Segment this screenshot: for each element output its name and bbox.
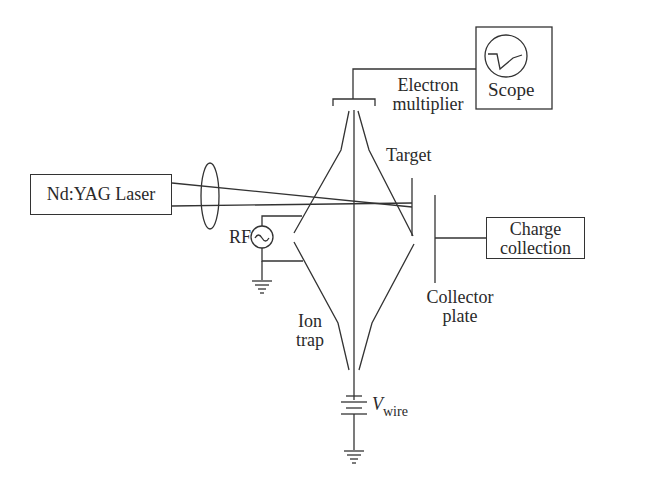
electron-multiplier-line2: multiplier <box>383 95 473 114</box>
ion-trap-label: Ion trap <box>290 312 330 350</box>
laser-beam-lower <box>172 203 412 206</box>
ground-icon-rf <box>252 281 272 293</box>
lens-icon <box>201 163 219 229</box>
scope-label: Scope <box>488 80 534 99</box>
ion-trap-right-upper <box>358 111 413 236</box>
collector-plate-line1: Collector <box>419 288 501 307</box>
electron-multiplier-line1: Electron <box>383 76 473 95</box>
charge-collection-box: Charge collection <box>486 217 585 259</box>
vwire-label: Vwire <box>372 395 408 415</box>
ion-trap-line2: trap <box>290 331 330 350</box>
vwire-symbol: V <box>372 394 383 414</box>
target-label: Target <box>386 146 431 165</box>
collector-plate-line2: plate <box>419 307 501 326</box>
rf-sine <box>255 235 269 241</box>
scope-trace <box>488 54 522 69</box>
rf-wire-bottom <box>262 248 303 261</box>
charge-collection-line2: collection <box>487 239 584 258</box>
ion-trap-left-upper <box>294 111 349 233</box>
electron-multiplier-label: Electron multiplier <box>383 76 473 114</box>
laser-box: Nd:YAG Laser <box>30 174 172 215</box>
laser-label: Nd:YAG Laser <box>31 185 171 204</box>
ion-trap-right-lower <box>359 244 414 370</box>
rf-wire-top <box>262 216 302 226</box>
collector-plate-label: Collector plate <box>419 288 501 326</box>
ion-trap-line1: Ion <box>290 312 330 331</box>
charge-collection-line1: Charge <box>487 220 584 239</box>
rf-label: RF <box>229 228 251 247</box>
ground-icon-wire <box>344 451 364 463</box>
electron-multiplier-icon <box>333 99 375 106</box>
vwire-subscript: wire <box>383 404 408 419</box>
